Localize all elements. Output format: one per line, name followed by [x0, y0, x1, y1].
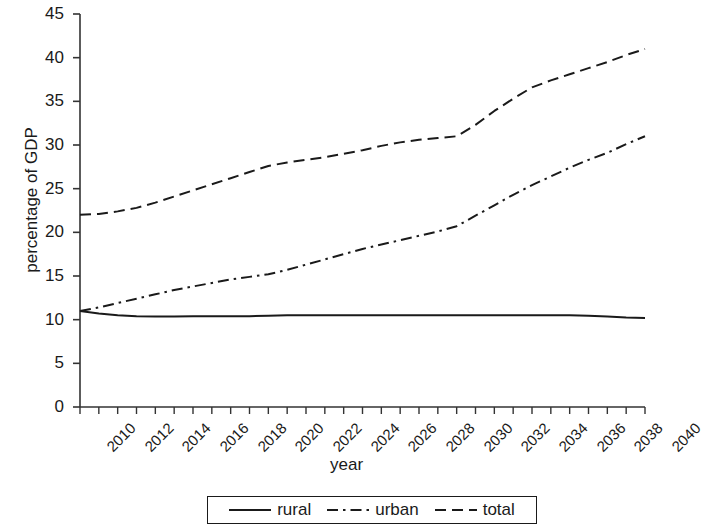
- y-tick-label: 40: [24, 49, 64, 66]
- y-tick-label: 30: [24, 136, 64, 153]
- series-line-urban: [80, 136, 645, 311]
- legend-entry-urban: urban: [327, 500, 418, 520]
- legend-swatch-total: [435, 505, 477, 515]
- y-tick-label: 20: [24, 223, 64, 240]
- y-tick-label: 15: [24, 267, 64, 284]
- legend-swatch-rural: [229, 505, 271, 515]
- y-tick-label: 45: [24, 5, 64, 22]
- y-tick-label: 25: [24, 180, 64, 197]
- data-series-group: [80, 49, 645, 318]
- legend-label-urban: urban: [375, 500, 418, 520]
- series-line-total: [80, 49, 645, 215]
- chart-legend: ruralurbantotal: [207, 496, 537, 524]
- axis-lines: [80, 14, 645, 407]
- y-tick-label: 10: [24, 311, 64, 328]
- legend-swatch-urban: [327, 505, 369, 515]
- x-axis-title: year: [330, 455, 363, 475]
- y-tick-label: 0: [24, 398, 64, 415]
- legend-label-rural: rural: [277, 500, 311, 520]
- x-tick-label: 2040: [669, 420, 703, 454]
- y-tick-label: 5: [24, 354, 64, 371]
- legend-label-total: total: [483, 500, 515, 520]
- legend-entry-rural: rural: [229, 500, 311, 520]
- legend-entry-total: total: [435, 500, 515, 520]
- y-tick-label: 35: [24, 92, 64, 109]
- series-line-rural: [80, 311, 645, 318]
- axis-ticks: [73, 14, 645, 414]
